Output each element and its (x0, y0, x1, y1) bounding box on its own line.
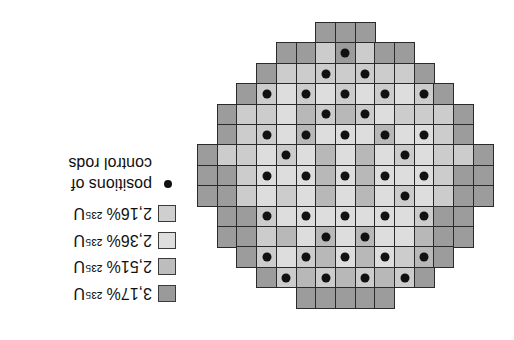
fuel-cell (355, 124, 376, 146)
fuel-cell (256, 63, 277, 85)
fuel-cell (276, 246, 297, 268)
fuel-cell (394, 63, 415, 85)
fuel-cell (433, 83, 454, 105)
fuel-cell (296, 246, 317, 268)
fuel-cell (414, 246, 435, 268)
fuel-cell (453, 124, 474, 146)
fuel-cell (276, 42, 297, 64)
fuel-cell (256, 267, 277, 289)
control-rod-icon (302, 130, 311, 139)
fuel-cell (276, 206, 297, 228)
fuel-cell (414, 165, 435, 187)
fuel-cell (374, 185, 395, 207)
fuel-cell (296, 63, 317, 85)
fuel-cell (453, 185, 474, 207)
fuel-cell (394, 185, 415, 207)
fuel-cell (236, 104, 257, 126)
fuel-cell (453, 104, 474, 126)
fuel-cell (236, 124, 257, 146)
control-rod-icon (262, 171, 271, 180)
fuel-cell (256, 144, 277, 166)
fuel-cell (296, 165, 317, 187)
fuel-cell (355, 287, 376, 309)
fuel-cell (433, 185, 454, 207)
control-rod-icon (400, 151, 409, 160)
fuel-cell (374, 287, 395, 309)
fuel-cell (276, 104, 297, 126)
fuel-cell (217, 124, 238, 146)
control-rod-icon (341, 49, 350, 58)
fuel-cell (296, 42, 317, 64)
fuel-cell (374, 63, 395, 85)
fuel-cell (315, 63, 336, 85)
fuel-cell (217, 206, 238, 228)
fuel-cell (414, 226, 435, 248)
fuel-cell (296, 144, 317, 166)
fuel-cell (335, 185, 356, 207)
fuel-cell (236, 246, 257, 268)
control-rod-icon (341, 212, 350, 221)
control-rod-icon (420, 130, 429, 139)
fuel-cell (296, 83, 317, 105)
fuel-cell (394, 267, 415, 289)
fuel-cell (276, 144, 297, 166)
fuel-cell (394, 104, 415, 126)
control-rod-icon (380, 90, 389, 99)
fuel-cell (473, 185, 494, 207)
fuel-cell (335, 287, 356, 309)
fuel-cell (335, 144, 356, 166)
fuel-cell (433, 104, 454, 126)
fuel-cell (276, 124, 297, 146)
fuel-cell (315, 104, 336, 126)
control-rod-icon (321, 110, 330, 119)
fuel-cell (433, 226, 454, 248)
fuel-cell (296, 226, 317, 248)
fuel-cell (335, 83, 356, 105)
fuel-cell (433, 206, 454, 228)
fuel-cell (236, 144, 257, 166)
control-rod-icon (302, 171, 311, 180)
control-rod-icon (380, 171, 389, 180)
fuel-cell (414, 206, 435, 228)
fuel-cell (315, 42, 336, 64)
fuel-cell (217, 104, 238, 126)
fuel-cell (374, 144, 395, 166)
fuel-cell (335, 226, 356, 248)
fuel-cell (276, 226, 297, 248)
fuel-cell (473, 144, 494, 166)
control-rod-icon (361, 110, 370, 119)
fuel-cell (394, 144, 415, 166)
fuel-cell (217, 185, 238, 207)
fuel-cell (296, 287, 317, 309)
fuel-cell (315, 165, 336, 187)
fuel-cell (256, 185, 277, 207)
fuel-cell (276, 185, 297, 207)
fuel-cell (256, 206, 277, 228)
fuel-cell (453, 165, 474, 187)
control-rod-icon (321, 273, 330, 282)
fuel-cell (315, 206, 336, 228)
fuel-cell (315, 287, 336, 309)
fuel-cell (256, 165, 277, 187)
fuel-cell (256, 83, 277, 105)
fuel-cell (315, 124, 336, 146)
control-rod-icon (361, 69, 370, 78)
control-rod-icon (380, 253, 389, 262)
fuel-cell (256, 246, 277, 268)
fuel-cell (355, 246, 376, 268)
control-rod-icon (341, 130, 350, 139)
fuel-cell (217, 144, 238, 166)
fuel-cell (197, 144, 218, 166)
fuel-cell (355, 83, 376, 105)
fuel-cell (296, 267, 317, 289)
fuel-cell (394, 246, 415, 268)
fuel-cell (276, 63, 297, 85)
control-rod-icon (420, 253, 429, 262)
fuel-cell (315, 226, 336, 248)
fuel-cell (433, 144, 454, 166)
control-rod-icon (302, 90, 311, 99)
fuel-cell (374, 246, 395, 268)
fuel-cell (335, 206, 356, 228)
fuel-cell (355, 185, 376, 207)
fuel-cell (197, 165, 218, 187)
